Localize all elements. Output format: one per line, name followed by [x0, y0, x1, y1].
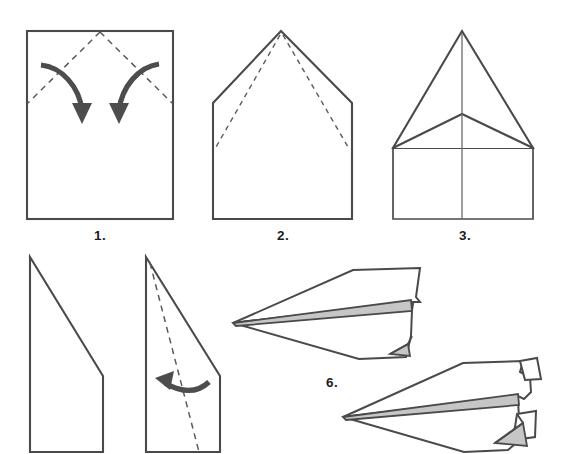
- step-6-label: 6.: [326, 375, 338, 390]
- paper-rectangle: [27, 31, 173, 219]
- step-1-figure: 1.: [27, 31, 173, 243]
- paper-half-fold-profile: [30, 257, 103, 452]
- step-2-figure: 2.: [213, 31, 352, 243]
- step-3-figure: 3.: [393, 31, 533, 243]
- step-6-figure: 6.: [233, 268, 420, 390]
- step-5-figure: [146, 257, 220, 452]
- step-7-figure: [343, 358, 541, 452]
- step-3-label: 3.: [459, 228, 471, 243]
- instruction-sheet: 1. 2. 3.: [0, 0, 561, 454]
- folding-diagram: 1. 2. 3.: [0, 0, 561, 454]
- plane7-upper-winglet: [520, 358, 541, 380]
- step-4-figure: [30, 257, 103, 452]
- paper-wing-fold-profile: [146, 257, 220, 452]
- step-1-label: 1.: [94, 228, 106, 243]
- step-2-label: 2.: [277, 228, 289, 243]
- paper-pentagon: [213, 31, 352, 219]
- paper-body-rectangle: [393, 148, 533, 219]
